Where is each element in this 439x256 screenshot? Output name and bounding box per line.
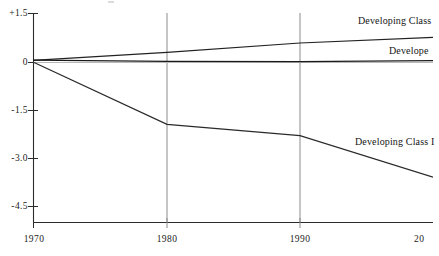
series-line-developing-class (33, 37, 433, 60)
y-tick-label-1: +1.5 (0, 8, 28, 18)
x-tick-label-1990: 1990 (280, 234, 320, 244)
series-label-developing-class: Developing Class (358, 15, 431, 26)
series-label-developing-class-two: Developing Class I (355, 136, 434, 147)
y-tick-label-2: 0 (0, 57, 28, 67)
series-label-developed: Develope (389, 45, 429, 56)
series-line-developed (33, 60, 433, 62)
x-tick-label-1980: 1980 (147, 234, 187, 244)
y-tick-label-5: -4.5 (0, 201, 28, 211)
series-line-developing-class-two (33, 62, 433, 177)
y-tick-label-3: -1.5 (0, 105, 28, 115)
x-tick-label-2000: 20 (414, 234, 439, 244)
y-tick-label-4: -3.0 (0, 153, 28, 163)
x-tick-label-1970: 1970 (14, 234, 54, 244)
